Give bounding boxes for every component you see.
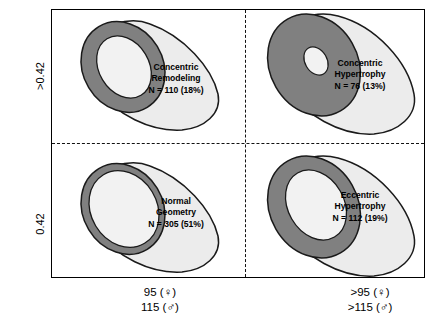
figure-root: Relative Wall Thickness >0.42 0.42 Conce… [0,0,439,329]
x-tick-female: 95 (♀) [100,285,220,300]
label-line-2: Hypertrophy [308,69,412,80]
x-axis-tick-right: >95 (♀) >115 (♂) [305,285,435,315]
label-line-2: Geometry [128,207,224,218]
label-count: N = 305 (51%) [128,219,224,230]
label-line-1: Normal [128,196,224,207]
label-line-2: Hypertrophy [308,201,412,212]
x-tick-male: 115 (♂) [100,300,220,315]
label-line-1: Concentric [308,58,412,69]
label-line-1: Concentric [128,62,224,73]
x-tick-male: >115 (♂) [305,300,435,315]
label-count: N = 110 (18%) [128,85,224,96]
label-line-1: Eccentric [308,190,412,201]
label-normal-geometry: Normal Geometry N = 305 (51%) [128,196,224,230]
label-count: N = 112 (19%) [308,213,412,224]
y-axis-tick-low: 0.42 [34,202,46,246]
horizontal-divider [52,143,424,144]
vertical-divider [245,10,246,277]
label-count: N = 76 (13%) [308,81,412,92]
label-concentric-hypertrophy: Concentric Hypertrophy N = 76 (13%) [308,58,412,92]
label-eccentric-hypertrophy: Eccentric Hypertrophy N = 112 (19%) [308,190,412,224]
x-tick-female: >95 (♀) [305,285,435,300]
x-axis-tick-left: 95 (♀) 115 (♂) [100,285,220,315]
y-axis-tick-high: >0.42 [34,54,46,98]
label-line-2: Remodeling [128,73,224,84]
label-concentric-remodeling: Concentric Remodeling N = 110 (18%) [128,62,224,96]
